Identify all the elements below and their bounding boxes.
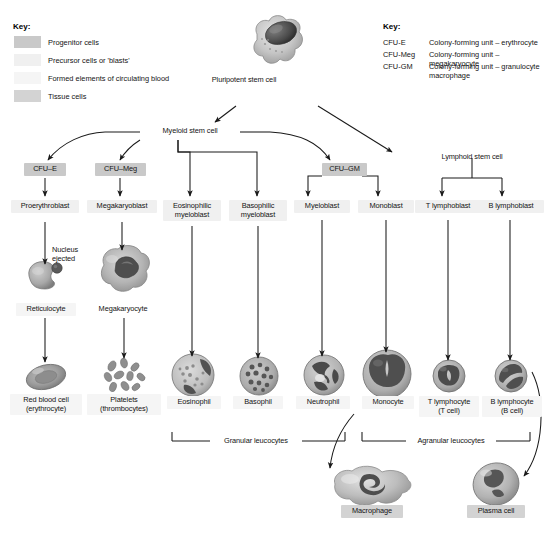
annotation-nucleus-ejected: Nucleus ejected [52,246,98,263]
node-basophil[interactable]: Basophil [233,396,283,409]
node-eosinophilic-myeloblast[interactable]: Eosinophilic myeloblast [163,200,221,221]
platelets-image [100,358,152,394]
plasma-cell-image [470,460,522,508]
node-b-lymphocyte[interactable]: B lymphocyte (B cell) [482,396,542,417]
key-right-title: Key: [383,22,400,31]
bracket-label-granular: Granular leucocytes [210,437,302,446]
node-plasma-cell[interactable]: Plasma cell [467,505,525,518]
precursor-swatch [14,54,41,66]
node-reticulocyte[interactable]: Reticulocyte [16,303,76,316]
b-lymphocyte-image [493,358,529,394]
node-cfu-e[interactable]: CFU–E [24,163,66,176]
eosinophil-image [170,352,216,398]
cfu-gm-abbr: CFU-GM [383,62,413,71]
key-left-title: Key: [13,22,30,31]
cfu-meg-abbr: CFU-Meg [383,50,415,59]
node-red-blood-cell[interactable]: Red blood cell (erythrocyte) [10,394,82,415]
t-lymphocyte-image [431,358,467,394]
key-left-item-precursor: Precursor cells or 'blasts' [48,56,130,65]
red-blood-cell-image [23,362,69,392]
macrophage-image [330,462,414,508]
node-monocyte[interactable]: Monocyte [362,396,414,409]
pluripotent-stem-cell-image [245,12,307,70]
node-t-lymphocyte[interactable]: T lymphocyte (T cell) [419,396,479,417]
node-proerythroblast[interactable]: Proerythroblast [11,200,79,213]
node-basophilic-myeloblast[interactable]: Basophilic myeloblast [229,200,287,221]
node-platelets[interactable]: Platelets (thrombocytes) [87,394,161,415]
node-megakaryoblast[interactable]: Megakaryoblast [87,200,157,213]
node-b-lymphoblast[interactable]: B lymphoblast [478,200,544,213]
formed-elements-swatch [14,72,41,84]
cfu-e-abbr: CFU-E [383,38,406,47]
node-eosinophil[interactable]: Eosinophil [167,396,221,409]
monocyte-image [360,348,414,400]
node-cfu-meg[interactable]: CFU–Meg [95,163,146,176]
basophil-image [238,355,280,397]
tissue-swatch [14,90,41,102]
megakaryocyte-image [96,243,154,297]
node-t-lymphoblast[interactable]: T lymphoblast [415,200,481,213]
node-myeloblast[interactable]: Myeloblast [294,200,350,213]
haemopoiesis-diagram: Key: Progenitor cells Precursor cells or… [0,0,548,535]
node-neutrophil[interactable]: Neutrophil [296,396,350,409]
cfu-gm-definition: Colony-forming unit – granulocyte macrop… [429,62,540,80]
key-left-item-formed: Formed elements of circulating blood [48,74,169,83]
node-cfu-gm[interactable]: CFU–GM [322,163,367,176]
node-monoblast[interactable]: Monoblast [358,200,414,213]
key-left-item-tissue: Tissue cells [48,92,86,101]
neutrophil-image [302,352,346,398]
cfu-e-definition: Colony-forming unit – erythrocyte [429,38,538,47]
progenitor-swatch [14,36,41,48]
key-left-item-progenitor: Progenitor cells [48,38,99,47]
node-megakaryocyte: Megakaryocyte [87,305,159,314]
label-pluripotent-stem-cell: Pluripotent stem cell [196,76,292,85]
label-lymphoid-stem-cell: Lymphoid stem cell [420,153,524,162]
bracket-label-agranular: Agranular leucocytes [406,437,496,446]
node-macrophage[interactable]: Macrophage [341,505,403,518]
label-myeloid-stem-cell: Myeloid stem cell [140,127,240,136]
